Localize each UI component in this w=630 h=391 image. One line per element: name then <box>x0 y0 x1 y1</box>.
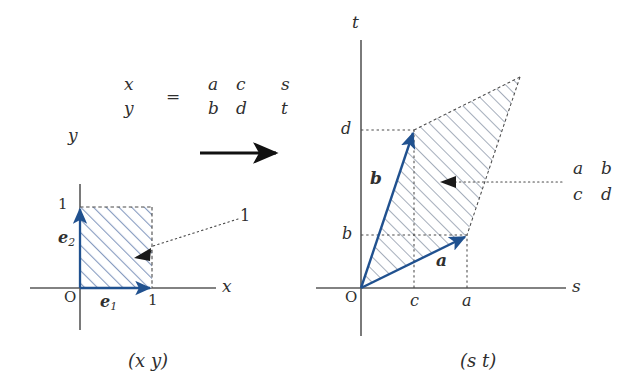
right-tick-s-a: a <box>462 293 472 309</box>
vector-b-label: b <box>370 170 382 187</box>
left-origin-label: O <box>64 290 76 305</box>
figure-canvas: x y = a c b d s t y x O 1 1 e2 e1 1 t s … <box>0 0 630 391</box>
equation-equals-sign: = <box>166 88 180 105</box>
matrix-entry-c: c <box>236 76 246 93</box>
caption-left-plane: (x y) <box>128 352 168 370</box>
right-tick-t-b: b <box>342 226 352 242</box>
basis-vector-e2-subscript: 2 <box>68 236 75 249</box>
right-origin-label: O <box>345 290 357 305</box>
basis-vector-e1-label: e1 <box>100 292 117 313</box>
left-area-label: 1 <box>240 208 250 224</box>
vector-a-label: a <box>436 252 447 269</box>
left-tick-x-1: 1 <box>148 293 158 308</box>
determinant-entry-a: a <box>573 160 583 177</box>
basis-vector-e2-label: e2 <box>58 228 75 249</box>
equation-rhs-row1: s <box>281 76 290 93</box>
left-axis-y-label: y <box>68 127 78 144</box>
unit-square-region <box>80 207 152 288</box>
left-axis-x-label: x <box>222 278 232 295</box>
right-axis-t-label: t <box>352 14 359 31</box>
matrix-entry-d: d <box>236 100 247 117</box>
basis-vector-e2-symbol: e <box>58 228 68 247</box>
basis-vector-e1-subscript: 1 <box>110 300 117 313</box>
equation-lhs-row2: y <box>124 100 134 117</box>
basis-vector-e1-symbol: e <box>100 292 110 311</box>
right-axis-s-label: s <box>572 278 581 295</box>
caption-right-plane: (s t) <box>460 352 496 370</box>
right-tick-t-d: d <box>341 121 351 137</box>
determinant-entry-d: d <box>601 186 612 203</box>
matrix-entry-a: a <box>208 76 218 93</box>
matrix-entry-b: b <box>208 100 219 117</box>
determinant-entry-c: c <box>573 186 583 203</box>
left-tick-y-1: 1 <box>58 197 68 212</box>
determinant-entry-b: b <box>601 160 612 177</box>
figure-graphics <box>0 0 630 391</box>
equation-lhs-row1: x <box>124 76 134 93</box>
right-tick-s-c: c <box>410 293 419 309</box>
equation-rhs-row2: t <box>281 100 288 117</box>
